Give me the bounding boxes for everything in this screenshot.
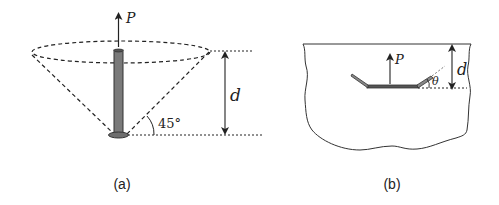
angle-label: θ xyxy=(432,75,439,88)
figure-a: P d 45° (a) xyxy=(32,10,264,192)
angle-arc-icon xyxy=(147,116,154,135)
depth-label: d xyxy=(457,60,467,79)
anchor-rod-top xyxy=(114,49,123,52)
figure-a-caption: (a) xyxy=(113,176,130,192)
depth-label: d xyxy=(230,85,241,105)
anchor-base-plate xyxy=(109,132,129,138)
cone-left-edge xyxy=(32,55,114,134)
figure-b-caption: (b) xyxy=(383,176,400,192)
anchor-right-wing xyxy=(417,76,433,88)
force-label: P xyxy=(125,10,136,26)
angle-label: 45° xyxy=(158,116,181,131)
force-label: P xyxy=(394,52,404,67)
anchor-left-wing xyxy=(351,74,368,88)
anchor-rod xyxy=(114,50,123,134)
soil-boundary xyxy=(303,44,471,150)
anchor-plate xyxy=(367,85,418,88)
figure-b: P d θ (b) xyxy=(303,44,471,192)
diagram-canvas: P d 45° (a) P d θ (b) xyxy=(0,0,499,205)
